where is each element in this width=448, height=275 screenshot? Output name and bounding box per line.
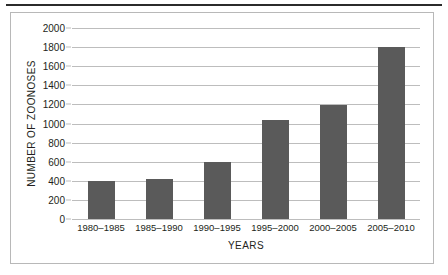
y-tick-label-2000: 2000	[43, 23, 65, 34]
bar	[88, 181, 115, 219]
bar-slot	[304, 28, 362, 219]
y-tick-label-1000: 1000	[43, 118, 65, 129]
x-tick-label: 1990–1995	[188, 222, 246, 233]
y-tick-label-1200: 1200	[43, 99, 65, 110]
x-axis-labels: 1980–1985 1985–1990 1990–1995 1995–2000 …	[72, 222, 420, 233]
y-tick-dash-1600	[66, 66, 71, 67]
bar-slot	[362, 28, 420, 219]
y-tick-dash-600	[66, 161, 71, 162]
bar-slot	[130, 28, 188, 219]
bar	[378, 47, 405, 219]
plot-area: 0 200 400 600 800 1000 1200 1400	[72, 28, 420, 219]
bar-slot	[188, 28, 246, 219]
bar	[204, 162, 231, 219]
y-tick-label-600: 600	[48, 156, 65, 167]
y-tick-dash-1200	[66, 104, 71, 105]
x-tick-label: 1985–1990	[130, 222, 188, 233]
bar-series	[72, 28, 420, 219]
y-tick-label-800: 800	[48, 137, 65, 148]
y-tick-dash-0	[66, 219, 71, 220]
y-tick-dash-1000	[66, 123, 71, 124]
x-tick-label: 2000–2005	[304, 222, 362, 233]
bar	[146, 179, 173, 219]
y-tick-label-1400: 1400	[43, 80, 65, 91]
y-tick-dash-800	[66, 142, 71, 143]
x-tick-label: 1980–1985	[72, 222, 130, 233]
y-tick-label-200: 200	[48, 194, 65, 205]
bar-slot	[72, 28, 130, 219]
y-tick-dash-1400	[66, 85, 71, 86]
figure: NUMBER OF ZOONOSES 0 200 400 600 800 100…	[0, 0, 448, 275]
y-tick-dash-200	[66, 199, 71, 200]
bar	[320, 105, 347, 219]
bar	[262, 120, 289, 219]
y-tick-label-1800: 1800	[43, 42, 65, 53]
bar-slot	[246, 28, 304, 219]
x-tick-label: 1995–2000	[246, 222, 304, 233]
x-tick-label: 2005–2010	[362, 222, 420, 233]
top-rule	[6, 4, 442, 6]
y-tick-dash-400	[66, 180, 71, 181]
y-tick-dash-1800	[66, 47, 71, 48]
gridline-0	[72, 219, 420, 220]
y-axis-title: NUMBER OF ZOONOSES	[24, 28, 38, 219]
y-tick-label-1600: 1600	[43, 61, 65, 72]
x-axis-title: YEARS	[72, 240, 420, 251]
y-tick-label-0: 0	[59, 214, 65, 225]
y-tick-label-400: 400	[48, 175, 65, 186]
y-tick-dash-2000	[66, 28, 71, 29]
